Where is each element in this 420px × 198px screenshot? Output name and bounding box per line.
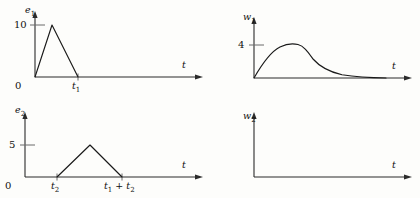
x-axis-label-t-e1: t (182, 60, 186, 70)
y-axis-label-sub: 2 (251, 116, 255, 124)
y-axis-label-w1: w1 (243, 12, 256, 25)
x-axis-arrow-icon (195, 74, 203, 79)
y-axis-label-text: w (243, 11, 251, 22)
sum-plus-operator: + (112, 180, 126, 191)
chart-panel-w2: w2 t (210, 99, 420, 198)
data-curve-e2 (57, 145, 122, 177)
figure-container: e1 10 0 t1 t w1 4 t (0, 0, 420, 198)
y-axis-label-sub: 1 (251, 17, 255, 25)
y-tick-label-5: 5 (9, 140, 15, 150)
x-axis-arrow-icon (404, 75, 412, 80)
origin-label-e2: 0 (5, 181, 11, 191)
y-tick-label-4: 4 (238, 40, 244, 50)
y-axis-label-e1: e1 (25, 5, 35, 18)
data-curve-w1 (254, 44, 386, 78)
chart-svg-w2 (210, 99, 420, 198)
y-axis-label-sub: 1 (31, 10, 35, 18)
x-axis-label-t-w1: t (392, 61, 396, 71)
y-axis-label-w2: w2 (243, 111, 256, 124)
chart-panel-w1: w1 4 t (210, 0, 420, 99)
x-axis-arrow-icon (404, 174, 412, 179)
origin-label-e1: 0 (15, 81, 21, 91)
y-axis-label-e2: e2 (15, 105, 25, 118)
x-axis-label-t-w2: t (392, 160, 396, 170)
x-tick-label-t1-sub: 1 (76, 86, 80, 94)
chart-panel-e2: e2 5 0 t2 t1 + t2 t (0, 99, 210, 198)
x-tick-label-t1-plus-t2: t1 + t2 (104, 181, 135, 194)
x-tick-label-t2-sub: 2 (55, 186, 59, 194)
x-axis-label-t-e2: t (182, 160, 186, 170)
data-curve-e1 (35, 25, 78, 77)
sum-t2-sub: 2 (130, 186, 134, 194)
x-axis-arrow-icon (195, 174, 203, 179)
y-tick-label-10: 10 (14, 20, 27, 30)
y-axis-label-text: w (243, 110, 251, 121)
x-tick-label-t1: t1 (72, 81, 80, 94)
x-tick-label-t2: t2 (51, 181, 59, 194)
y-axis-label-sub: 2 (21, 110, 25, 118)
chart-panel-e1: e1 10 0 t1 t (0, 0, 210, 99)
